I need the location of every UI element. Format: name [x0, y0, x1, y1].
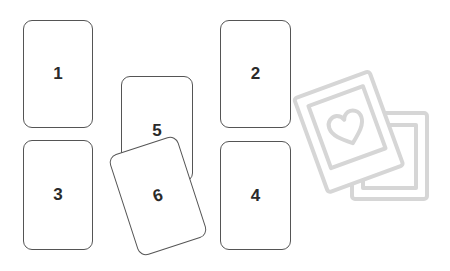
card-4-label: 4 [251, 186, 260, 206]
card-2[interactable]: 2 [220, 20, 291, 128]
card-3-label: 3 [53, 185, 62, 205]
card-4[interactable]: 4 [220, 141, 291, 250]
card-6-label: 6 [150, 185, 165, 207]
card-1[interactable]: 1 [23, 20, 93, 128]
card-3[interactable]: 3 [23, 140, 93, 250]
card-5-label: 5 [152, 121, 161, 141]
photo-cards-heart-icon [290, 70, 450, 210]
card-6[interactable]: 6 [107, 134, 208, 257]
card-2-label: 2 [251, 64, 260, 84]
card-1-label: 1 [53, 64, 62, 84]
